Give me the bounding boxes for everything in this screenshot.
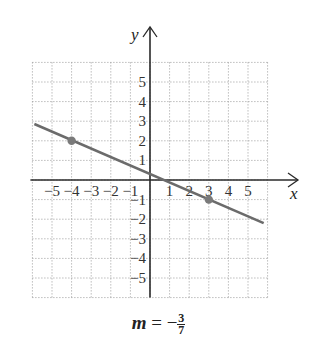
coordinate-plane: −5−4−3−2−112345−5−4−3−2−112345 x y — [0, 0, 317, 337]
x-tick-label: −3 — [83, 183, 99, 199]
slope-caption: m = −37 — [0, 312, 317, 336]
data-point-marker — [205, 195, 213, 203]
y-tick-label: 3 — [139, 113, 147, 129]
x-tick-label: −2 — [103, 183, 119, 199]
y-tick-label: −3 — [130, 231, 146, 247]
x-tick-label: −5 — [44, 183, 60, 199]
fraction-denominator: 7 — [177, 325, 185, 336]
slope-symbol: m — [132, 312, 147, 333]
equals-sign: = — [151, 312, 162, 333]
y-tick-label: 1 — [139, 152, 147, 168]
y-tick-label: −4 — [130, 250, 146, 266]
axes — [30, 27, 298, 298]
x-tick-label: 5 — [244, 183, 252, 199]
x-tick-label: 4 — [225, 183, 233, 199]
y-tick-label: 4 — [139, 94, 147, 110]
y-tick-label: −2 — [130, 211, 146, 227]
y-axis-label: y — [129, 25, 139, 44]
y-tick-label: 2 — [139, 133, 147, 149]
y-tick-label: −5 — [130, 270, 146, 286]
slope-fraction: 37 — [177, 313, 185, 336]
x-axis-label: x — [289, 184, 298, 203]
data-point-marker — [67, 137, 75, 145]
x-tick-label: −4 — [64, 183, 80, 199]
y-tick-label: −1 — [130, 192, 146, 208]
negative-sign: − — [167, 312, 178, 333]
x-tick-label: 1 — [166, 183, 174, 199]
y-tick-label: 5 — [139, 74, 147, 90]
